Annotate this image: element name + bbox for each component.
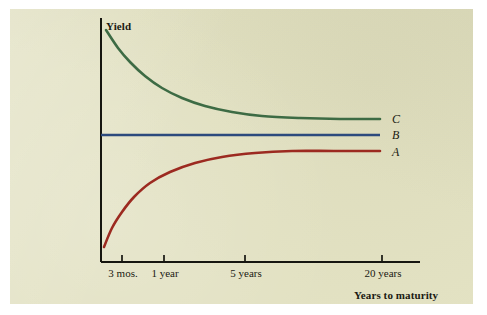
curve-a-path	[104, 151, 380, 247]
chart-panel: Yield 3 mos. 1 year 5 years 20 years Yea…	[10, 9, 473, 304]
x-tick-label-20years: 20 years	[365, 267, 402, 279]
curve-label-a: A	[392, 145, 399, 160]
curve-c-path	[106, 30, 380, 119]
curve-label-c: C	[392, 112, 400, 127]
yield-curve-plot	[10, 9, 473, 304]
curve-label-b: B	[392, 128, 399, 143]
figure-root: Yield 3 mos. 1 year 5 years 20 years Yea…	[0, 0, 487, 315]
x-tick-label-5years: 5 years	[230, 267, 261, 279]
x-tick-label-1year: 1 year	[151, 267, 178, 279]
y-axis-title: Yield	[106, 20, 131, 32]
x-axis-title: Years to maturity	[354, 289, 438, 301]
x-tick-label-3mos: 3 mos.	[108, 267, 137, 279]
